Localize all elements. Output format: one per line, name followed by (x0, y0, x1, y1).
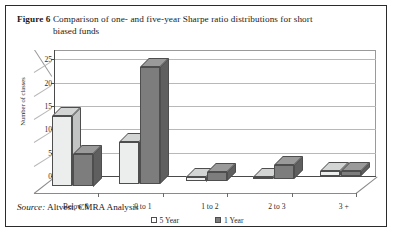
bar-front-face (73, 154, 93, 187)
x-axis-tick-mark (356, 193, 357, 197)
bar-5-year-3-+ (320, 171, 340, 176)
x-axis-tick-mark (98, 193, 99, 197)
figure-caption-line2: biased funds (53, 25, 99, 37)
bar-1-year-below-0 (73, 154, 93, 187)
x-axis-tick-mark (227, 193, 228, 197)
bar-front-face (52, 116, 72, 186)
figure-source: Source: Altvest, CMRA Analysis (17, 202, 139, 212)
x-axis-tick-label: 3 + (339, 202, 349, 211)
bar-5-year-1-to-2 (186, 177, 206, 182)
legend-item-5-year: 5 Year (151, 216, 179, 225)
bar-side-face (160, 58, 169, 184)
bar-1-year-3-+ (341, 171, 361, 176)
bar-5-year-0-to-1 (119, 142, 139, 184)
x-axis-tick-label: 1 to 2 (201, 202, 218, 211)
bar-1-year-0-to-1 (140, 67, 160, 184)
figure-caption: Figure 6 Comparison of one- and five-yea… (17, 13, 377, 25)
legend-item-1-year: 1 Year (215, 216, 243, 225)
bar-front-face (207, 172, 227, 181)
bar-front-face (341, 171, 361, 176)
bar-front-face (253, 177, 273, 179)
bar-front-face (274, 165, 294, 179)
chart-legend: 5 Year1 Year (12, 214, 382, 226)
legend-label: 1 Year (224, 216, 243, 225)
source-label: Source: (17, 202, 45, 212)
figure-frame: Figure 6 Comparison of one- and five-yea… (5, 5, 387, 227)
bar-front-face (140, 67, 160, 184)
legend-label: 5 Year (160, 216, 179, 225)
bar-front-face (320, 171, 340, 176)
x-axis-tick-mark (292, 193, 293, 197)
figure-label: Figure 6 (17, 14, 50, 24)
bar-5-year-2-to-3 (253, 177, 273, 179)
figure-caption-line1: Comparison of one- and five-year Sharpe … (53, 14, 313, 24)
bar-1-year-1-to-2 (207, 172, 227, 181)
legend-swatch-icon (215, 217, 221, 223)
x-axis-tick-mark (163, 193, 164, 197)
source-text: Altvest, CMRA Analysis (47, 202, 139, 212)
bar-5-year-below-0 (52, 116, 72, 186)
legend-swatch-icon (151, 217, 157, 223)
x-axis-tick-label: 2 to 3 (268, 202, 285, 211)
bar-front-face (186, 177, 206, 182)
bar-front-face (119, 142, 139, 184)
bar-1-year-2-to-3 (274, 165, 294, 179)
chart-bars (12, 46, 382, 198)
chart-plot-area: 0510152025 Number of classes Below 00 to… (12, 46, 382, 198)
